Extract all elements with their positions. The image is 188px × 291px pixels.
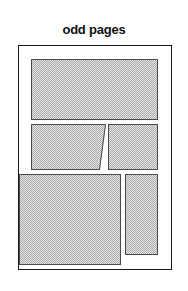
layout-block-top-wide <box>31 59 158 120</box>
layout-block-mid-left-fill <box>31 124 106 170</box>
diagram-canvas: odd pages <box>0 0 188 291</box>
diagram-title: odd pages <box>0 22 188 38</box>
page-outline <box>18 45 172 270</box>
layout-block-mid-right <box>108 124 158 170</box>
layout-block-bottom-right <box>125 174 158 255</box>
layout-block-mid-left <box>31 124 106 170</box>
layout-block-bottom-left <box>19 174 121 265</box>
